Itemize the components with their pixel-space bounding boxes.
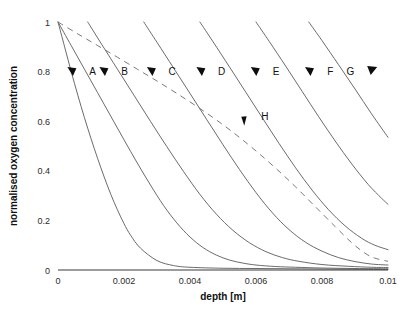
curve-label-f: F xyxy=(327,66,333,77)
x-tick-label: 0.008 xyxy=(311,276,334,286)
annotation-b: B xyxy=(99,66,128,77)
annotation-a: A xyxy=(67,66,96,77)
curve-annotations: ABCDEFGH xyxy=(67,66,377,126)
x-tick-label: 0.002 xyxy=(113,276,136,286)
annotation-c: C xyxy=(147,66,176,77)
x-tick-label: 0 xyxy=(55,276,60,286)
curve-d xyxy=(144,22,388,265)
pointer-arrow-icon xyxy=(99,67,108,76)
curves-layer xyxy=(58,22,388,270)
x-axis-title: depth [m] xyxy=(200,291,246,302)
x-tick-labels: 00.0020.0040.0060.0080.01 xyxy=(55,276,396,286)
curve-label-h: H xyxy=(261,111,268,122)
pointer-arrow-icon xyxy=(305,67,314,76)
y-axis-title: normalised oxygen concentration xyxy=(8,66,19,226)
curve-label-a: A xyxy=(89,66,96,77)
curve-e xyxy=(200,22,388,250)
y-tick-label: 0.4 xyxy=(37,166,50,176)
y-tick-label: 0.8 xyxy=(37,67,50,77)
annotation-d: D xyxy=(196,66,225,77)
y-tick-label: 0.2 xyxy=(37,216,50,226)
curve-label-d: D xyxy=(218,66,225,77)
x-tick-label: 0.004 xyxy=(179,276,202,286)
y-tick-label: 0 xyxy=(45,266,50,276)
pointer-arrow-icon xyxy=(367,66,377,75)
pointer-arrow-icon xyxy=(251,67,260,76)
curve-label-b: B xyxy=(121,66,128,77)
curve-label-c: C xyxy=(169,66,176,77)
curve-label-g: G xyxy=(347,66,355,77)
curve-f xyxy=(256,22,388,204)
annotation-g: G xyxy=(347,66,378,77)
pointer-arrow-icon xyxy=(147,67,156,76)
figure-container: 00.0020.0040.0060.0080.01 00.20.40.60.81… xyxy=(0,0,417,315)
y-tick-labels: 00.20.40.60.81 xyxy=(37,18,50,276)
x-tick-label: 0.006 xyxy=(245,276,268,286)
curve-c xyxy=(88,22,388,268)
pointer-arrow-icon xyxy=(196,67,205,76)
annotation-e: E xyxy=(251,66,280,77)
y-tick-label: 0.6 xyxy=(37,117,50,127)
curve-label-e: E xyxy=(273,66,280,77)
x-tick-label: 0.01 xyxy=(379,276,397,286)
annotation-h: H xyxy=(241,111,268,126)
oxygen-depth-chart: 00.0020.0040.0060.0080.01 00.20.40.60.81… xyxy=(0,0,417,315)
curve-h xyxy=(58,22,388,261)
y-tick-label: 1 xyxy=(45,18,50,28)
annotation-f: F xyxy=(305,66,333,77)
pointer-arrow-icon xyxy=(241,116,246,126)
